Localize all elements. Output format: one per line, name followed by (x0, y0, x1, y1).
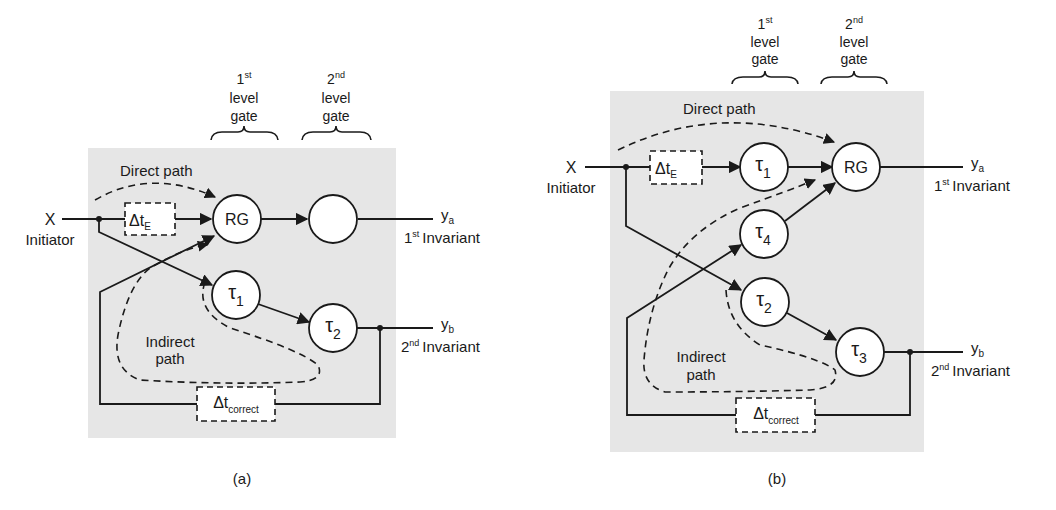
direct-path-label: Direct path (683, 100, 756, 117)
brace-icon (732, 71, 798, 84)
output-ya-label: 1stInvariant (404, 229, 481, 246)
svg-text:gate: gate (840, 51, 867, 67)
output-ya-label: 1stInvariant (934, 177, 1011, 194)
input-label: Initiator (546, 179, 595, 196)
brace-icon (821, 71, 887, 84)
panel-caption: (b) (768, 470, 786, 487)
svg-text:gate: gate (751, 51, 778, 67)
svg-text:level: level (751, 34, 780, 50)
delay-correct-box: Δtcorrect (197, 387, 275, 421)
output-ya: ya (441, 206, 455, 226)
output-yb-label: 2ndInvariant (931, 362, 1011, 379)
node-tau1: τ1 (212, 271, 260, 319)
indirect-path-label: Indirect (145, 333, 195, 350)
svg-text:level: level (840, 34, 869, 50)
output-yb: yb (441, 315, 455, 335)
gate-label-1st: 1st level gate (732, 15, 798, 84)
output-yb-label: 2ndInvariant (401, 338, 481, 355)
input-label: Initiator (25, 231, 74, 248)
brace-icon (211, 126, 278, 140)
node-tau1: τ1 (740, 143, 788, 191)
node-tau2: τ2 (309, 304, 357, 352)
input-symbol: X (45, 211, 56, 228)
svg-text:gate: gate (322, 108, 349, 124)
indirect-path-label: path (155, 350, 184, 367)
delay-e-box: ΔtE (125, 203, 175, 235)
delay-correct-box: Δtcorrect (736, 398, 815, 432)
svg-text:RG: RG (844, 159, 868, 176)
output-ya: ya (971, 154, 985, 174)
node-gate2 (309, 195, 357, 243)
svg-text:1st: 1st (237, 70, 252, 87)
svg-text:1st: 1st (758, 15, 773, 32)
svg-text:gate: gate (230, 108, 257, 124)
diagram-canvas: 1st level gate 2nd level gate X Initiato… (0, 0, 1056, 510)
panel-caption: (a) (233, 470, 251, 487)
direct-path-label: Direct path (120, 162, 193, 179)
gate-label-2nd: 2nd level gate (302, 70, 371, 140)
svg-text:RG: RG (225, 211, 249, 228)
node-tau3: τ3 (836, 328, 884, 376)
panel-b: 1st level gate 2nd level gate X Initiato… (546, 15, 1010, 487)
gate-label-1st: 1st level gate (211, 70, 278, 140)
svg-text:2nd: 2nd (327, 70, 345, 87)
indirect-path-label: Indirect (676, 348, 726, 365)
brace-icon (302, 126, 371, 140)
gate-label-2nd: 2nd level gate (821, 15, 887, 84)
output-yb: yb (971, 339, 985, 359)
delay-e-box: ΔtE (650, 151, 702, 184)
node-rg: RG (832, 143, 880, 191)
input-symbol: X (566, 159, 577, 176)
node-tau2: τ2 (741, 278, 789, 326)
svg-text:level: level (230, 90, 259, 106)
node-tau4: τ4 (740, 210, 788, 258)
svg-text:2nd: 2nd (845, 15, 863, 32)
indirect-path-label: path (686, 366, 715, 383)
panel-a: 1st level gate 2nd level gate X Initiato… (25, 70, 480, 487)
svg-text:level: level (322, 90, 351, 106)
node-rg: RG (213, 195, 261, 243)
